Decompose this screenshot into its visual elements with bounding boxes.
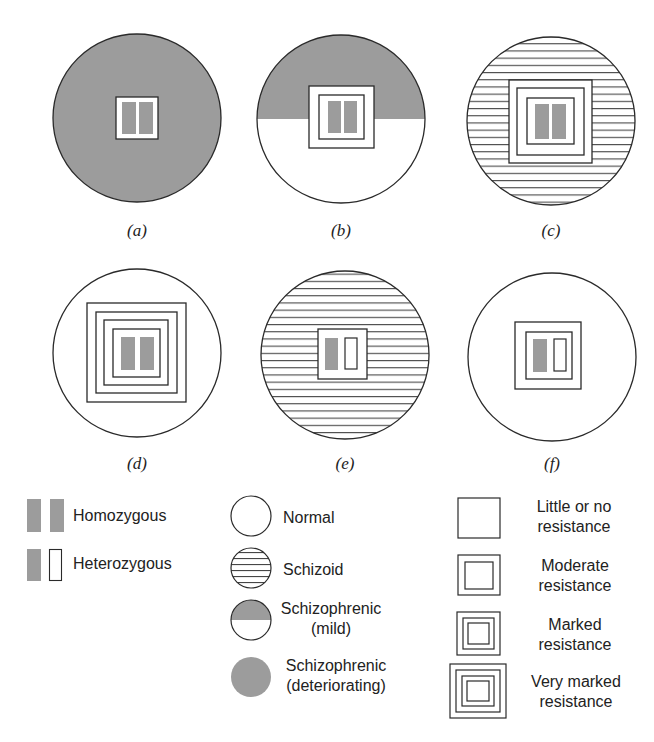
allele-shaded-left bbox=[121, 337, 135, 370]
panel-d bbox=[53, 269, 221, 437]
allele-shaded-right bbox=[140, 337, 154, 370]
single-square-icon bbox=[458, 498, 500, 538]
legend-homozygous-label: Homozygous bbox=[73, 507, 166, 524]
quadruple-square-icon bbox=[450, 664, 506, 718]
panel-c-caption: (c) bbox=[542, 221, 561, 240]
legend-moderate-resistance-line2: resistance bbox=[539, 577, 612, 594]
triple-square-icon bbox=[457, 612, 500, 655]
allele-shaded bbox=[325, 338, 338, 370]
panel-f-caption: (f) bbox=[544, 454, 560, 473]
legend-marked-resistance-line2: resistance bbox=[539, 636, 612, 653]
heterozygous-icon bbox=[27, 549, 62, 581]
panel-a bbox=[53, 34, 221, 202]
genetics-diagram: (a) (b) (c) (d) (e) (f) Homozygous bbox=[0, 0, 654, 742]
schizophrenic-mild-circle-icon bbox=[228, 598, 274, 640]
allele-shaded-left bbox=[122, 102, 136, 134]
legend-schizoid-label: Schizoid bbox=[283, 561, 343, 578]
panel-f bbox=[468, 273, 636, 441]
panel-a-caption: (a) bbox=[127, 221, 147, 240]
panel-d-caption: (d) bbox=[127, 454, 147, 473]
schizophrenic-deteriorating-circle-icon bbox=[231, 657, 271, 697]
legend-schizophrenic-mild-label-line1: Schizophrenic bbox=[281, 600, 382, 617]
legend-schizophrenic-deteriorating-label-line2: (deteriorating) bbox=[286, 677, 386, 694]
legend-normal-label: Normal bbox=[283, 509, 335, 526]
allele-unshaded bbox=[554, 339, 566, 371]
allele-shaded bbox=[533, 339, 547, 372]
legend-phenotype: Normal Schizoid Schizophrenic (mild) Sch… bbox=[228, 496, 386, 697]
schizoid-circle-icon bbox=[231, 548, 271, 588]
allele-shaded-right bbox=[344, 101, 357, 133]
resistance-square-3 bbox=[527, 98, 574, 144]
normal-circle-icon bbox=[231, 496, 271, 536]
legend-little-resistance-line2: resistance bbox=[538, 518, 611, 535]
legend-very-marked-resistance-line1: Very marked bbox=[531, 673, 621, 690]
allele-shaded-left bbox=[328, 101, 341, 133]
panel-c bbox=[467, 37, 635, 205]
allele-shaded-right bbox=[139, 102, 153, 134]
legend-marked-resistance-line1: Marked bbox=[548, 616, 601, 633]
panel-e bbox=[261, 271, 429, 439]
double-square-icon bbox=[458, 555, 500, 595]
panel-e-caption: (e) bbox=[336, 454, 355, 473]
legend-little-resistance-line1: Little or no bbox=[537, 498, 612, 515]
allele-shaded-left bbox=[535, 104, 549, 139]
homozygous-icon bbox=[27, 499, 64, 532]
legend-heterozygous-label: Heterozygous bbox=[73, 555, 172, 572]
legend-schizophrenic-deteriorating-label-line1: Schizophrenic bbox=[286, 657, 387, 674]
resistance-square-2 bbox=[319, 95, 364, 139]
allele-unshaded bbox=[345, 338, 357, 369]
panel-b bbox=[250, 30, 440, 203]
legend-moderate-resistance-line1: Moderate bbox=[541, 557, 609, 574]
legend-genotype: Homozygous Heterozygous bbox=[27, 499, 172, 581]
legend-schizophrenic-mild-label-line2: (mild) bbox=[311, 620, 351, 637]
allele-shaded-right bbox=[552, 104, 566, 139]
legend-resistance: Little or no resistance Moderate resista… bbox=[450, 498, 621, 718]
legend-very-marked-resistance-line2: resistance bbox=[540, 693, 613, 710]
panel-b-caption: (b) bbox=[331, 221, 351, 240]
